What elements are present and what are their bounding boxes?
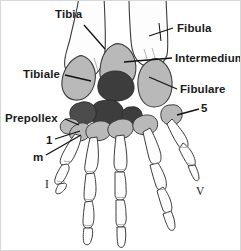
digit-v [167, 119, 199, 181]
anatomical-figure: Tibia Fibula Intermedium Tibiale Fibular… [0, 0, 241, 251]
label-distal-carpal-5: 5 [201, 102, 208, 114]
fibulare-bone [138, 59, 172, 107]
label-metacarpal-m: m [33, 151, 43, 163]
label-intermedium: Intermedium [175, 52, 241, 64]
skeleton-illustration [1, 1, 241, 251]
label-distal-carpal-1: 1 [46, 134, 53, 146]
label-tibia: Tibia [55, 8, 82, 20]
label-fibulare: Fibulare [180, 83, 226, 95]
label-digit-i: I [45, 178, 49, 190]
digit-iv [143, 128, 175, 230]
fibula-bone [129, 1, 168, 67]
label-digit-v: V [196, 185, 204, 197]
label-prepollex: Prepollex [5, 112, 58, 124]
digit-ii [83, 137, 98, 245]
digit-iii [114, 135, 127, 247]
label-fibula: Fibula [177, 22, 211, 34]
label-tibiale: Tibiale [23, 68, 60, 80]
